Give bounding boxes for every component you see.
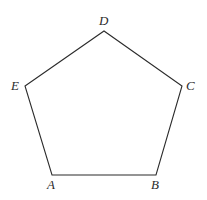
- vertex-label-b: B: [151, 178, 159, 191]
- pentagon-outline: [25, 31, 182, 175]
- vertex-label-e: E: [11, 79, 19, 92]
- vertex-label-c: C: [186, 79, 195, 92]
- geometry-figure-canvas: A B C D E: [0, 0, 207, 200]
- pentagon-diagram: [0, 0, 207, 200]
- vertex-label-a: A: [47, 178, 55, 191]
- vertex-label-d: D: [99, 14, 108, 27]
